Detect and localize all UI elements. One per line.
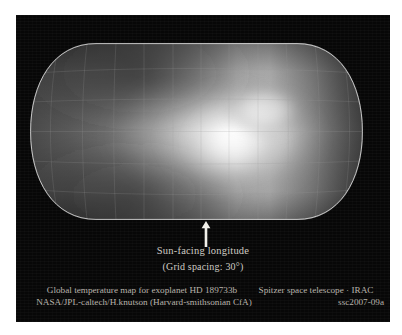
credit-release-id: ssc2007-09a bbox=[246, 297, 386, 309]
credit-right: Spitzer space telescope · IRAC ssc2007-0… bbox=[246, 285, 386, 308]
up-arrow-icon bbox=[199, 221, 213, 247]
grid-spacing-note: (Grid spacing: 30°) bbox=[16, 261, 390, 272]
poster-image: Sun-facing longitude (Grid spacing: 30°)… bbox=[0, 0, 402, 335]
credit-attribution: NASA/JPL-caltech/H.knutson (Harvard-smit… bbox=[16, 297, 268, 309]
temperature-map bbox=[30, 43, 363, 220]
credit-left: Global temperature map for exoplanet HD … bbox=[16, 285, 268, 308]
poster-panel: Sun-facing longitude (Grid spacing: 30°)… bbox=[16, 15, 390, 322]
credits-block: Global temperature map for exoplanet HD … bbox=[16, 285, 390, 319]
credit-title: Global temperature map for exoplanet HD … bbox=[16, 285, 268, 297]
credit-instrument: Spitzer space telescope · IRAC bbox=[246, 285, 386, 297]
map-fill bbox=[30, 43, 363, 220]
temperature-map-svg bbox=[30, 43, 363, 220]
sun-facing-longitude-label: Sun-facing longitude bbox=[16, 245, 390, 256]
